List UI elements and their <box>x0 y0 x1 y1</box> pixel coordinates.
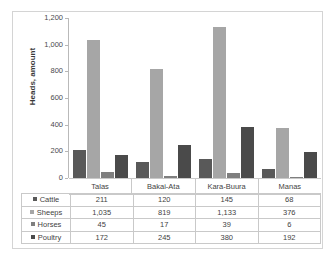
legend-label: Poultry <box>38 233 61 242</box>
table-cell: 145 <box>196 194 259 207</box>
data-table: Cattle21112014568Sheeps1,0358191,133376H… <box>21 193 321 244</box>
bar-poultry-manas[interactable] <box>304 152 317 178</box>
bar-sheeps-talas[interactable] <box>87 40 100 178</box>
bar-group <box>69 18 132 178</box>
table-cell: 211 <box>71 194 134 207</box>
y-axis-tick-label: 200 <box>33 148 63 156</box>
bar-cattle-kara-buura[interactable] <box>199 159 212 178</box>
y-axis-tick-label: 1,200 <box>33 14 63 22</box>
table-cell: 376 <box>258 206 321 219</box>
legend-item-poultry[interactable]: Poultry <box>22 231 71 244</box>
chart-container: Heads, amount 02004006008001,0001,200 Ta… <box>12 11 323 249</box>
table-cell: 1,133 <box>196 206 259 219</box>
table-cell: 39 <box>196 219 259 232</box>
table-row: Sheeps1,0358191,133376 <box>22 206 321 219</box>
bar-cattle-talas[interactable] <box>73 150 86 178</box>
y-axis-tick-mark <box>65 178 68 179</box>
table-cell: 245 <box>133 231 196 244</box>
legend-swatch-icon <box>31 235 35 239</box>
x-axis-category-label: Bakai-Ata <box>132 179 195 194</box>
bar-cattle-manas[interactable] <box>262 169 275 178</box>
bar-group <box>195 18 258 178</box>
table-cell: 1,035 <box>71 206 134 219</box>
table-cell: 68 <box>258 194 321 207</box>
bar-cattle-bakai-ata[interactable] <box>136 162 149 178</box>
legend-label: Sheeps <box>37 208 62 217</box>
legend-swatch-icon <box>31 222 35 226</box>
legend-item-sheeps[interactable]: Sheeps <box>22 206 71 219</box>
table-row: Poultry172245380192 <box>22 231 321 244</box>
legend-swatch-icon <box>30 210 34 214</box>
bar-group <box>132 18 195 178</box>
y-axis-tick-label: 600 <box>33 94 63 102</box>
bar-sheeps-bakai-ata[interactable] <box>150 69 163 178</box>
y-axis-tick-label: 1,000 <box>33 41 63 49</box>
legend-label: Horses <box>38 220 62 229</box>
table-cell: 380 <box>196 231 259 244</box>
table-cell: 172 <box>71 231 134 244</box>
table-cell: 45 <box>71 219 134 232</box>
plot-area <box>69 18 321 178</box>
legend-item-horses[interactable]: Horses <box>22 219 71 232</box>
x-axis-category-label: Kara-Buura <box>196 179 259 194</box>
y-axis-tick-label: 400 <box>33 121 63 129</box>
table-cell: 120 <box>133 194 196 207</box>
legend-item-cattle[interactable]: Cattle <box>22 194 71 207</box>
bar-poultry-bakai-ata[interactable] <box>178 145 191 178</box>
legend-swatch-icon <box>33 197 37 201</box>
table-cell: 6 <box>258 219 321 232</box>
plot-region: Heads, amount 02004006008001,0001,200 Ta… <box>13 12 324 186</box>
table-cell: 17 <box>133 219 196 232</box>
table-cell: 819 <box>133 206 196 219</box>
y-axis-tick-label: 800 <box>33 68 63 76</box>
table-cell: 192 <box>258 231 321 244</box>
bar-poultry-kara-buura[interactable] <box>241 127 254 178</box>
bar-group <box>258 18 321 178</box>
x-axis-category-label: Manas <box>259 179 321 194</box>
legend-label: Cattle <box>40 195 60 204</box>
table-row: Horses4517396 <box>22 219 321 232</box>
bar-sheeps-manas[interactable] <box>276 128 289 178</box>
table-row: Cattle21112014568 <box>22 194 321 207</box>
y-axis-tick-label: 0 <box>33 174 63 182</box>
bar-poultry-talas[interactable] <box>115 155 128 178</box>
x-axis-category-label: Talas <box>69 179 132 194</box>
y-axis-tick-labels: 02004006008001,0001,200 <box>33 12 63 186</box>
bar-sheeps-kara-buura[interactable] <box>213 27 226 178</box>
